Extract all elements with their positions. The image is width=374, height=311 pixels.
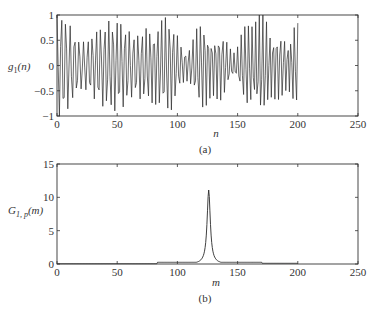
x-tick-label: 250 <box>350 266 367 278</box>
y-tick-label: 10 <box>43 191 55 203</box>
x-axis-label-a: n <box>213 127 219 139</box>
x-axis-label-b: m <box>212 276 220 288</box>
figure: 050100150200250−1−0.500.51 g1(n) n (a) 0… <box>0 0 374 311</box>
x-tick-label: 0 <box>54 266 60 278</box>
y-tick-label: −1 <box>42 110 54 122</box>
y-tick-label: 0 <box>49 60 55 72</box>
y-tick-label: 0.5 <box>40 34 54 46</box>
x-tick-label: 200 <box>290 118 307 130</box>
y-tick-label: −0.5 <box>34 85 54 97</box>
x-tick-label: 250 <box>350 118 367 130</box>
x-tick-label: 100 <box>169 266 186 278</box>
caption-a: (a) <box>199 143 212 156</box>
x-tick-label: 50 <box>112 118 124 130</box>
ticks-b: 050100150200250051015 <box>43 158 367 278</box>
y-axis-label-a: g1(n) <box>8 60 31 75</box>
y-tick-label: 5 <box>49 225 55 237</box>
spectrum-line-G1p <box>57 190 298 264</box>
x-tick-label: 0 <box>54 118 60 130</box>
axes-frame-a <box>57 15 358 116</box>
y-tick-label: 0 <box>49 258 55 270</box>
signal-line-g1 <box>57 15 298 116</box>
x-tick-label: 150 <box>229 266 246 278</box>
x-tick-label: 200 <box>290 266 307 278</box>
caption-b: (b) <box>199 292 212 305</box>
x-tick-label: 150 <box>229 118 246 130</box>
plot-a: 050100150200250−1−0.500.51 g1(n) n (a) <box>8 9 367 156</box>
y-axis-label-b: G1, p(m) <box>8 204 44 219</box>
y-tick-label: 1 <box>49 9 55 21</box>
x-tick-label: 100 <box>169 118 186 130</box>
plot-b: 050100150200250051015 G1, p(m) m (b) <box>8 158 367 305</box>
x-tick-label: 50 <box>112 266 124 278</box>
y-tick-label: 15 <box>43 158 55 170</box>
